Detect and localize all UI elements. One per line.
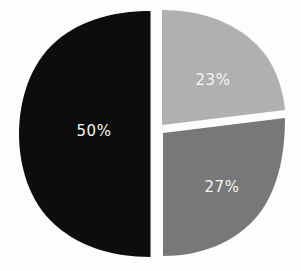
pie-chart-canvas: 50% 23% 27% (0, 0, 301, 271)
pie-slice-label-27: 27% (204, 178, 239, 196)
pie-chart-figure: 50% 23% 27% (0, 0, 301, 271)
pie-slice-label-23: 23% (195, 71, 230, 89)
pie-slice-label-50: 50% (76, 122, 111, 140)
